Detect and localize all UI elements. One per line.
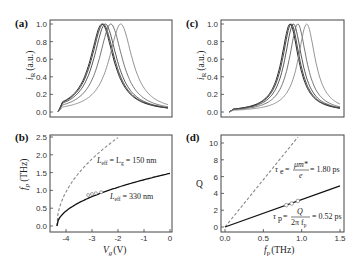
tick-label: 1.0 xyxy=(207,20,219,29)
resonance-curve xyxy=(58,24,168,112)
panel-label-b: (b) xyxy=(15,131,29,144)
resonance-curve xyxy=(58,24,168,112)
tick-label: -3 xyxy=(88,234,96,243)
panel-label-d: (d) xyxy=(186,131,200,144)
tick-label: 1.0 xyxy=(36,20,48,29)
tick-label: 0 xyxy=(214,223,219,232)
tick-label: 6 xyxy=(214,173,219,182)
tick-label: 2.5 xyxy=(36,133,48,142)
x-axis-label-b: Vg(V) xyxy=(103,245,127,257)
tick-label: 0.2 xyxy=(207,90,219,99)
curves-c xyxy=(229,24,340,112)
svg-text:= 1.80 ps: = 1.80 ps xyxy=(310,165,340,174)
tick-label: 0.0 xyxy=(36,108,48,117)
panel-label-a: (a) xyxy=(15,17,28,30)
x-axis-label-d: fp(THz) xyxy=(264,245,294,257)
annotation-tau-p: τ p = Q 2π fp = 0.52 ps xyxy=(273,207,342,228)
resonance-curve xyxy=(58,24,168,112)
panel-d: 02468100.00.51.01.5 Q fp(THz) τ e = μm* … xyxy=(196,135,346,257)
tick-label: 1.0 xyxy=(36,186,48,195)
tick-label: 0 xyxy=(168,234,173,243)
resonance-curve xyxy=(58,24,168,112)
curves-b xyxy=(57,138,170,226)
svg-text:e: e xyxy=(299,171,303,180)
svg-text:=: = xyxy=(283,212,288,221)
tick-label: -1 xyxy=(140,234,148,243)
tick-label: -4 xyxy=(62,234,70,243)
tick-label: 10 xyxy=(209,139,218,148)
panel-c: 0.00.20.40.60.81.0 iR(a.u.) xyxy=(196,20,344,117)
tick-label: 4 xyxy=(214,189,219,198)
data-point xyxy=(94,192,97,195)
svg-text:p: p xyxy=(278,214,282,223)
resonance-curve xyxy=(229,24,340,112)
annotation-tau-e: τ e = μm* e = 1.80 ps xyxy=(275,160,340,180)
axis-ticks-b: 0.00.51.01.52.02.5-4-3-2-10 xyxy=(36,133,173,243)
svg-text:= 0.52 ps: = 0.52 ps xyxy=(312,212,342,221)
svg-text:τ: τ xyxy=(273,212,277,221)
annotation-leff-330: Leff = 330 nm xyxy=(109,192,154,202)
tick-label: 0.6 xyxy=(207,55,219,64)
tick-label: 2.0 xyxy=(36,151,48,160)
tick-label: 8 xyxy=(214,156,219,165)
panel-a: 0.00.20.40.60.81.0 iR(a.u.) xyxy=(25,20,172,117)
figure: (a) (c) (b) (d) 0.00.20.40.60.81.0 iR(a.… xyxy=(0,0,362,271)
tick-label: 0.5 xyxy=(258,234,270,243)
svg-text:e: e xyxy=(280,167,284,176)
tick-label: 2 xyxy=(214,206,219,215)
tick-label: 0.8 xyxy=(36,38,48,47)
panel-label-c: (c) xyxy=(186,17,199,30)
data-point xyxy=(91,192,94,195)
y-axis-label-d: Q xyxy=(196,179,203,189)
tick-label: -2 xyxy=(114,234,122,243)
svg-text:=: = xyxy=(285,165,290,174)
svg-text:2π fp: 2π fp xyxy=(291,218,307,228)
svg-text:τ: τ xyxy=(275,165,279,174)
data-point xyxy=(296,199,300,203)
curve-leff-150 xyxy=(57,138,118,226)
data-point xyxy=(100,191,103,194)
tick-label: 0.0 xyxy=(219,234,231,243)
tick-label: 0.8 xyxy=(207,38,219,47)
tick-label: 1.5 xyxy=(334,234,346,243)
data-point xyxy=(285,203,289,207)
curves-a xyxy=(58,24,168,112)
tick-label: 1.0 xyxy=(296,234,308,243)
tick-label: 0.2 xyxy=(36,90,48,99)
plot-frame-b xyxy=(50,135,172,232)
tick-label: 0.0 xyxy=(36,222,48,231)
svg-text:Q: Q xyxy=(297,207,303,216)
data-point xyxy=(87,194,90,197)
panel-b: 0.00.51.01.52.02.5-4-3-2-10 fp(THz) Vg(V… xyxy=(19,133,173,257)
tick-label: 0.6 xyxy=(36,55,48,64)
tick-label: 0.4 xyxy=(207,73,219,82)
tick-label: 0.0 xyxy=(207,108,219,117)
y-axis-label-b: fp(THz) xyxy=(19,159,31,190)
tick-label: 0.5 xyxy=(36,204,48,213)
tick-label: 1.5 xyxy=(36,169,48,178)
annotation-leff-150: Leff = Lg = 150 nm xyxy=(96,156,157,166)
data-point xyxy=(290,202,294,206)
tick-label: 0.4 xyxy=(36,73,48,82)
svg-text:μm*: μm* xyxy=(293,160,308,169)
resonance-curve xyxy=(58,24,168,112)
